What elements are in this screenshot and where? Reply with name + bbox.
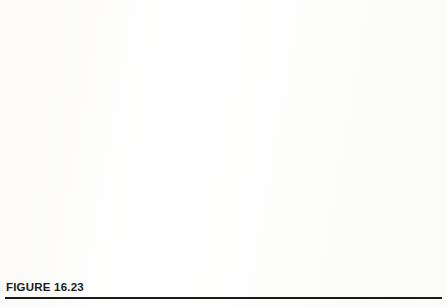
bar-1	[356, 249, 371, 261]
bar-2	[151, 45, 166, 261]
bar-3	[166, 77, 181, 261]
legend-item: Non-Elevated CO2 Treatment #2	[236, 146, 444, 168]
legend-label: Non-Elevated CO2 Treatment #1	[257, 130, 390, 140]
bar-2	[77, 226, 92, 261]
bar-1	[209, 252, 224, 261]
figure-container: 0.000.100.200.300.400.500.600.700.800.90…	[0, 0, 447, 307]
bar-highlight	[282, 242, 297, 244]
bar-highlight	[136, 194, 151, 196]
y-axis-tick-label: 0.00	[12, 258, 42, 265]
y-axis-tick-label: 0.10	[12, 231, 42, 238]
bar-highlight	[151, 45, 166, 47]
bar-highlight	[297, 245, 312, 247]
y-axis-tick-label: 0.60	[12, 96, 42, 103]
figure-caption-text: FIGURE 16.23	[6, 281, 84, 293]
y-axis-tick-label: 0.40	[12, 150, 42, 157]
x-axis-tick	[415, 261, 416, 265]
bar-1	[136, 194, 151, 262]
bar-highlight	[92, 229, 107, 231]
bar-highlight	[371, 243, 386, 245]
y-axis-tick-label: 0.80	[12, 42, 42, 49]
x-axis-tick	[268, 261, 269, 265]
bar-highlight	[166, 77, 181, 79]
bar-highlight	[62, 223, 77, 225]
bar-group	[121, 18, 194, 261]
legend-swatch	[236, 107, 249, 120]
y-axis-tick-label: 0.20	[12, 204, 42, 211]
bar-2	[224, 248, 239, 262]
bar-highlight	[356, 249, 371, 251]
bar-1	[62, 223, 77, 261]
bar-3	[312, 246, 327, 261]
x-axis-tick	[195, 261, 196, 265]
bar-highlight	[386, 245, 401, 247]
legend-label: Non-Elevated CO2 Treatment #2	[257, 152, 390, 162]
bar-highlight	[239, 249, 254, 251]
bar-highlight	[224, 248, 239, 250]
bar-1	[282, 242, 297, 261]
y-axis-tick-label: 0.30	[12, 177, 42, 184]
legend-swatch	[236, 129, 249, 142]
legend-swatch	[236, 151, 249, 164]
x-axis-category-label: Mg %	[297, 266, 313, 272]
x-axis-category-label: Ca %	[224, 266, 239, 272]
bar-2	[371, 243, 386, 261]
bar-3	[386, 245, 401, 261]
x-axis-tick	[121, 261, 122, 265]
legend-label: Elevated CO2 Treatment	[257, 108, 357, 118]
y-axis-tick-labels: 0.000.100.200.300.400.500.600.700.800.90	[12, 0, 42, 278]
bar-highlight	[209, 252, 224, 254]
legend-item: Non-Elevated CO2 Treatment #1	[236, 124, 444, 146]
bar-chart: 0.000.100.200.300.400.500.600.700.800.90…	[0, 0, 447, 278]
chart-legend: Elevated CO2 TreatmentNon-Elevated CO2 T…	[236, 102, 444, 168]
figure-caption-block: FIGURE 16.23	[0, 281, 447, 307]
bar-group	[48, 18, 121, 261]
x-axis-category-label: P %	[79, 266, 90, 272]
bar-highlight	[77, 226, 92, 228]
y-axis-tick-label: 0.70	[12, 69, 42, 76]
x-axis-category-label: S %	[373, 266, 384, 272]
x-axis-tick-labels: P %K %Ca %Mg %S %	[48, 266, 415, 278]
bar-2	[297, 245, 312, 261]
caption-divider-rule	[5, 297, 442, 299]
x-axis-tick	[342, 261, 343, 265]
bar-highlight	[312, 246, 327, 248]
y-axis-tick-label: 0.50	[12, 123, 42, 130]
bar-3	[239, 249, 254, 261]
x-axis-category-label: K %	[152, 266, 163, 272]
bar-3	[92, 229, 107, 261]
y-axis-tick-label: 0.90	[12, 15, 42, 22]
legend-item: Elevated CO2 Treatment	[236, 102, 444, 124]
x-axis-tick	[48, 261, 49, 265]
